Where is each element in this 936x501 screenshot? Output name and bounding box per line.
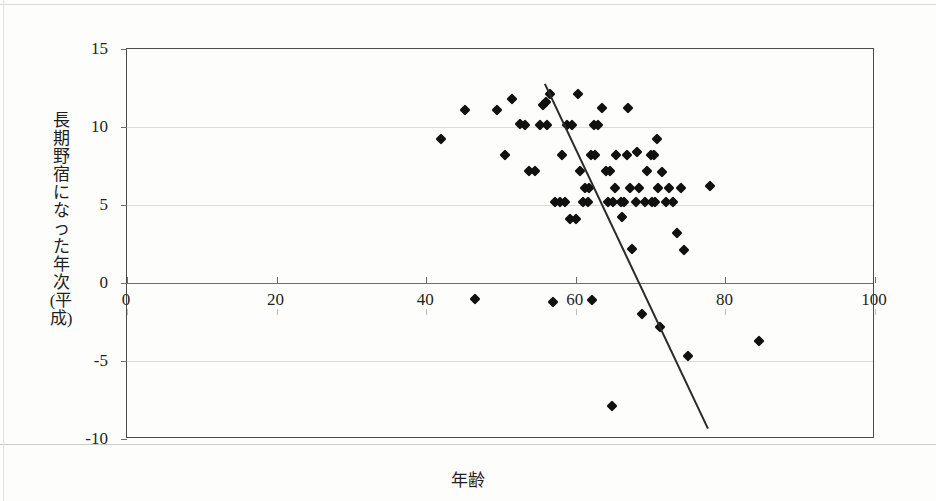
data-point [679,245,690,256]
plot-area [126,48,874,438]
y-tick-label: 10 [0,118,108,135]
data-point [656,167,667,178]
scan-edge-top [0,4,936,5]
x-tick-label: 100 [861,291,887,308]
x-tick-mark-lower [426,309,427,315]
x-tick-mark-lower [875,309,876,315]
data-point [634,182,645,193]
data-point [753,335,764,346]
y-tick-mark [121,361,127,362]
data-point [631,146,642,157]
data-point [469,293,480,304]
x-tick-mark [875,277,876,283]
data-point [606,401,617,412]
scan-edge-bottom [0,444,936,445]
data-point [654,321,665,332]
data-point [626,243,637,254]
x-tick-mark [576,277,577,283]
x-tick-mark-lower [277,309,278,315]
x-axis-line [127,283,873,284]
data-point [574,165,585,176]
y-tick-label: 5 [0,196,108,213]
data-point [671,227,682,238]
x-tick-mark-lower [576,309,577,315]
x-tick-mark-lower [127,309,128,315]
x-tick-label: 0 [122,291,131,308]
y-axis-title: 長期野宿になった年次(平成) [48,112,74,328]
y-tick-mark [121,283,127,284]
x-tick-label: 80 [716,291,733,308]
x-tick-label: 60 [566,291,583,308]
x-tick-mark [426,277,427,283]
y-tick-mark [121,127,127,128]
data-point [542,120,553,131]
data-point [652,182,663,193]
chart-page: 長期野宿になった年次(平成) 年齢 151050-5-1002040608010… [0,0,936,501]
data-point [435,134,446,145]
x-tick-mark [725,277,726,283]
x-axis-title: 年齢 [0,466,936,491]
x-tick-label: 20 [267,291,284,308]
x-tick-label: 40 [417,291,434,308]
x-tick-mark [127,277,128,283]
data-point [557,149,568,160]
x-tick-mark-lower [725,309,726,315]
data-point [499,149,510,160]
y-tick-mark [121,205,127,206]
data-point [641,165,652,176]
gridline-y [127,127,873,128]
y-tick-mark [121,49,127,50]
y-tick-label: -5 [0,352,108,369]
data-point [664,182,675,193]
data-point [617,212,628,223]
data-point [492,104,503,115]
gridline-y [127,361,873,362]
data-point [705,181,716,192]
data-point [636,309,647,320]
data-point [675,182,686,193]
data-point [587,294,598,305]
gridline-y [127,205,873,206]
y-tick-label: 0 [0,274,108,291]
data-point [519,120,530,131]
data-point [548,296,559,307]
scan-edge-left [3,0,4,501]
data-point [459,104,470,115]
y-tick-mark [121,439,127,440]
data-point [651,134,662,145]
data-point [609,182,620,193]
data-point [611,149,622,160]
data-point [507,93,518,104]
y-tick-label: -10 [0,430,108,447]
data-point [596,103,607,114]
data-point [622,103,633,114]
y-tick-label: 15 [0,40,108,57]
x-tick-mark [277,277,278,283]
data-point [572,89,583,100]
